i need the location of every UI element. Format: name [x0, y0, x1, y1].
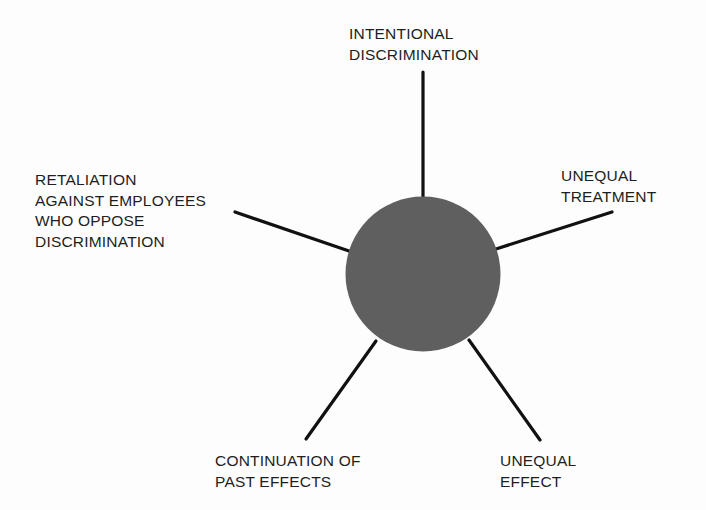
- spoke-line-retaliation: [235, 212, 349, 251]
- diagram-graphic: [0, 0, 706, 510]
- label-line: DISCRIMINATION: [35, 232, 206, 253]
- label-line: INTENTIONAL: [349, 24, 479, 45]
- label-line: UNEQUAL: [561, 166, 656, 187]
- spoke-line-continuation-of-past-effects: [306, 341, 376, 439]
- label-line: RETALIATION: [35, 170, 206, 191]
- label-retaliation: RETALIATION AGAINST EMPLOYEES WHO OPPOSE…: [35, 170, 206, 252]
- label-line: WHO OPPOSE: [35, 211, 206, 232]
- diagram-canvas: INTENTIONAL DISCRIMINATION UNEQUAL TREAT…: [0, 0, 706, 510]
- spoke-line-unequal-treatment: [496, 212, 612, 249]
- label-unequal-effect: UNEQUAL EFFECT: [500, 451, 576, 492]
- center-hub-circle: [346, 197, 501, 352]
- label-continuation-of-past-effects: CONTINUATION OF PAST EFFECTS: [215, 451, 361, 492]
- label-line: PAST EFFECTS: [215, 472, 361, 493]
- label-line: AGAINST EMPLOYEES: [35, 191, 206, 212]
- spoke-line-unequal-effect: [469, 340, 540, 440]
- label-line: UNEQUAL: [500, 451, 576, 472]
- label-line: CONTINUATION OF: [215, 451, 361, 472]
- label-line: EFFECT: [500, 472, 576, 493]
- label-unequal-treatment: UNEQUAL TREATMENT: [561, 166, 656, 207]
- label-line: DISCRIMINATION: [349, 45, 479, 66]
- label-line: TREATMENT: [561, 187, 656, 208]
- label-intentional-discrimination: INTENTIONAL DISCRIMINATION: [349, 24, 479, 65]
